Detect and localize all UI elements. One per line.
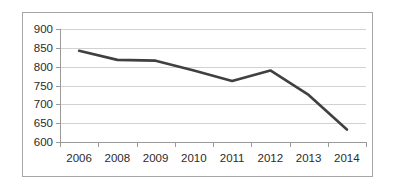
x-axis-label: 2013 <box>296 152 322 164</box>
data-series-line <box>79 51 347 130</box>
y-axis-label: 750 <box>34 80 53 92</box>
chart-plot-area: 9008508007507006506002006200820092010201… <box>23 13 372 176</box>
x-axis-label: 2012 <box>258 152 284 164</box>
x-axis-label: 2009 <box>143 152 169 164</box>
x-axis-label: 2011 <box>220 152 245 164</box>
x-axis-label: 2010 <box>181 152 207 164</box>
x-axis-label: 2008 <box>105 152 131 164</box>
x-axis-label: 2014 <box>334 152 360 164</box>
y-axis-label: 800 <box>34 61 53 73</box>
y-axis-label: 900 <box>34 23 53 35</box>
y-axis-label: 650 <box>34 117 53 129</box>
line-chart: 9008508007507006506002006200820092010201… <box>23 13 374 178</box>
x-axis-label: 2006 <box>66 152 92 164</box>
y-axis-label: 850 <box>34 42 53 54</box>
y-axis-label: 700 <box>34 98 53 110</box>
chart-frame: 9008508007507006506002006200820092010201… <box>22 12 373 177</box>
y-axis-label: 600 <box>34 136 53 148</box>
